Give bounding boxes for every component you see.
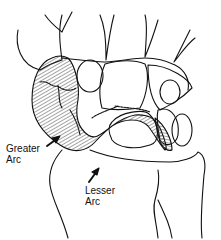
pisiform [172, 114, 192, 146]
lesser-arc-label-line1: Lesser [85, 185, 115, 196]
greater-arc-label: Greater Arc [6, 143, 40, 165]
capitate [100, 61, 148, 110]
trapezoid [77, 60, 103, 92]
greater-arc-label-line2: Arc [6, 154, 40, 165]
ulna [154, 170, 159, 238]
radius [50, 150, 68, 238]
greater-arc-label-line1: Greater [6, 143, 40, 154]
lesser-arc-label: Lesser Arc [85, 185, 115, 207]
hamate-hook [160, 80, 180, 104]
greater-arc-band [32, 56, 166, 150]
hamate [148, 65, 192, 110]
lesser-arc-label-line2: Arc [85, 196, 115, 207]
